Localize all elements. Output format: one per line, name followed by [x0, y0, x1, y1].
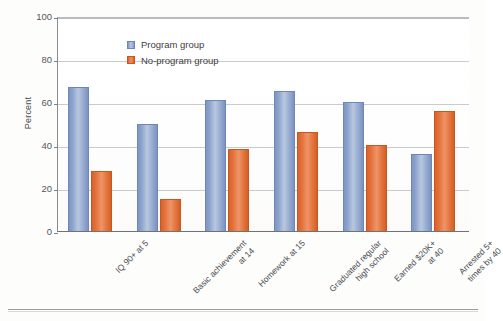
legend-item-no-program-group: No-program group [127, 56, 219, 66]
bar-no-program-group[interactable] [160, 199, 181, 231]
legend-label-no-program-group: No-program group [141, 56, 219, 66]
bar-program-group[interactable] [274, 91, 295, 231]
legend-label-program-group: Program group [141, 40, 204, 50]
bar-program-group[interactable] [137, 124, 158, 232]
bar-no-program-group[interactable] [91, 171, 112, 231]
y-tick-label: 40 [26, 141, 52, 151]
page-rule [8, 309, 478, 310]
bar-no-program-group[interactable] [434, 111, 455, 231]
bar-series-container [58, 18, 469, 231]
x-axis-tick-labels: IQ 90+ at 5Basic achievementat 14Homewor… [57, 232, 469, 317]
y-tick-label: 20 [26, 184, 52, 194]
y-tick-label: 0 [26, 227, 52, 237]
bar-program-group[interactable] [343, 102, 364, 231]
x-tick-label: Graduated regularhigh school [327, 238, 391, 302]
x-tick-label-line: IQ 90+ at 5 [113, 238, 150, 275]
legend-item-program-group: Program group [127, 40, 219, 50]
bar-no-program-group[interactable] [228, 149, 249, 231]
x-tick-label: Earned $20K+at 40 [392, 238, 445, 291]
bar-program-group[interactable] [205, 100, 226, 231]
x-tick-label: Homework at 15 [256, 238, 307, 289]
x-tick-label: Basic achievementat 14 [191, 238, 256, 303]
legend-swatch-blue-icon [127, 41, 135, 49]
y-axis-tick-labels: 100806040200 [22, 0, 52, 321]
plot-area: Program group No-program group [57, 17, 469, 232]
page-rule-shadow [8, 311, 478, 312]
y-tick-label: 80 [26, 55, 52, 65]
bar-program-group[interactable] [411, 154, 432, 231]
bar-group [264, 18, 333, 231]
chart-legend: Program group No-program group [127, 40, 219, 71]
x-tick-label: Arrested 5+times by 40 [457, 238, 503, 284]
bar-program-group[interactable] [68, 87, 89, 231]
bar-group [58, 18, 127, 231]
bar-group [401, 18, 470, 231]
x-tick-label: IQ 90+ at 5 [113, 238, 150, 275]
bar-no-program-group[interactable] [297, 132, 318, 231]
x-tick-label-line: Homework at 15 [256, 238, 307, 289]
bar-group [333, 18, 402, 231]
bar-no-program-group[interactable] [366, 145, 387, 231]
legend-swatch-orange-icon [127, 56, 135, 64]
y-tick-label: 100 [26, 12, 52, 22]
y-tick-label: 60 [26, 98, 52, 108]
